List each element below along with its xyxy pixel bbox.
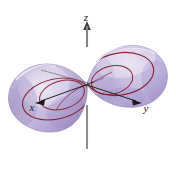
y-axis-label: y (143, 102, 149, 114)
figure-container: z y x (0, 0, 176, 170)
surface-figure: z y x (0, 0, 176, 170)
x-axis-label: x (29, 101, 35, 113)
z-axis-label: z (83, 11, 89, 23)
